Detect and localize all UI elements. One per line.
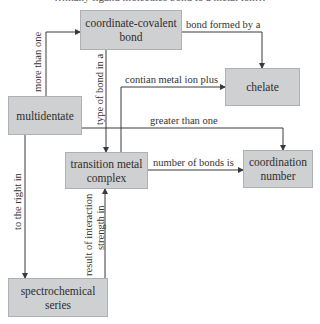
edge-label-result-of-interaction-line2: strength in [95, 205, 107, 250]
node-label: bond [120, 30, 143, 44]
node-label: complex [87, 171, 127, 185]
edge-label-contian-metal-ion-plus: contian metal ion plus [125, 74, 218, 86]
edge-label-more-than-one: more than one [32, 32, 44, 92]
node-coordination-number: coordination number [243, 150, 313, 188]
node-chelate: chelate [225, 68, 300, 106]
node-label: series [45, 298, 71, 312]
node-label: spectrochemical [21, 284, 96, 298]
concept-map: …many ligand molecules bond to a metal i… [0, 0, 320, 324]
node-coordinate-covalent-bond: coordinate-covalent bond [80, 10, 182, 50]
edge-bond-formed-by-a [182, 32, 262, 68]
node-label: transition metal [71, 157, 143, 171]
node-label: number [260, 169, 295, 183]
edge-label-to-the-right-in: to the right in [12, 173, 24, 230]
edge-label-bond-formed-by-a: bond formed by a [186, 19, 260, 31]
edge-label-number-of-bonds-is: number of bonds is [153, 157, 234, 169]
edge-more-than-one [46, 32, 80, 96]
node-transition-metal-complex: transition metal complex [65, 152, 148, 189]
node-label: coordinate-covalent [85, 16, 176, 30]
cropped-caption: …many ligand molecules bond to a metal i… [0, 0, 320, 3]
edge-label-greater-than-one: greater than one [150, 115, 218, 127]
edge-greater-than-one [82, 128, 283, 150]
node-multidentate: multidentate [8, 96, 82, 135]
edge-label-type-of-bond-in-a: type of bond in a [94, 54, 106, 125]
node-label: coordination [249, 155, 307, 169]
node-spectrochemical-series: spectrochemical series [8, 278, 108, 317]
node-label: multidentate [16, 109, 73, 123]
edge-label-result-of-interaction-line1: result of interaction [83, 194, 95, 276]
node-label: chelate [246, 80, 279, 94]
